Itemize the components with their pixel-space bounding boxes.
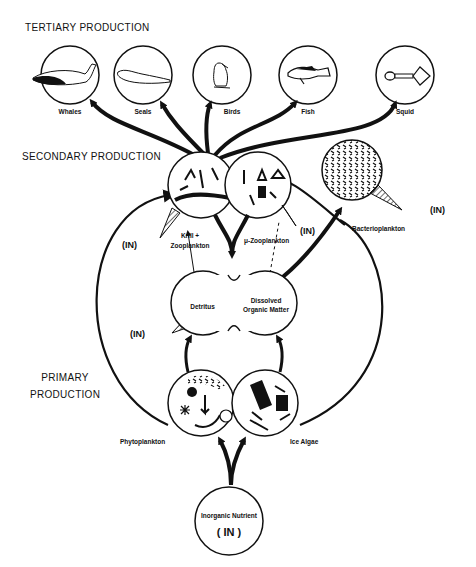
tertiary-label-whales: Whales [45,108,95,115]
dom-label-line1: Dissolved [232,297,300,304]
detritus-label: Detritus [180,303,225,310]
phytoplankton-circle [168,370,234,436]
in-label-micro: (IN) [300,226,315,236]
primary-heading-line2: PRODUCTION [30,389,100,400]
micro-zooplankton-circle [225,152,291,218]
primary-to-detritus-arrows [186,338,282,372]
food-web-diagram [0,0,476,567]
micro-zooplankton-label: μ-Zooplankton [244,237,289,244]
dom-label: Dissolved Organic Matter [232,297,300,313]
birds-circle [193,46,251,104]
dom-label-line2: Organic Matter [232,306,300,313]
in-label-bacterio: (IN) [430,205,445,215]
tertiary-label-squid: Squid [380,108,430,115]
phytoplankton-label: Phytoplankton [120,438,165,445]
krill-label-line1: Krill + [160,232,220,239]
krill-zooplankton-label: Krill + Zooplankton [160,232,220,249]
krill-label-line2: Zooplankton [160,242,220,249]
ice-algae-label: Ice Algae [290,438,318,445]
tertiary-production-heading: TERTIARY PRODUCTION [25,22,150,33]
nutrient-label-line1: Inorganic Nutrient [193,512,265,519]
primary-heading-line1: PRIMARY [30,372,100,383]
tertiary-label-fish: Fish [283,108,333,115]
primary-production-heading: PRIMARY PRODUCTION [30,372,100,400]
ice-algae-circle [232,370,298,436]
tertiary-label-birds: Birds [207,108,257,115]
nutrient-in-label: ( IN ) [193,526,265,538]
dom-to-bacterio-arrow [275,210,340,283]
in-label-krill: (IN) [122,240,137,250]
secondary-production-heading: SECONDARY PRODUCTION [22,151,161,162]
tertiary-circles [41,46,434,104]
dom-to-micro-dashed-link [270,222,279,273]
tertiary-label-seals: Seals [118,108,168,115]
nutrient-to-primary-arrows [220,440,244,485]
inorganic-nutrient-label: Inorganic Nutrient [193,512,265,519]
inorganic-nutrient-circle [195,487,263,555]
bacterioplankton-label: Bacterioplankton [352,225,405,232]
in-label-detritus: (IN) [130,329,145,339]
krill-zooplankton-circle [168,152,234,218]
